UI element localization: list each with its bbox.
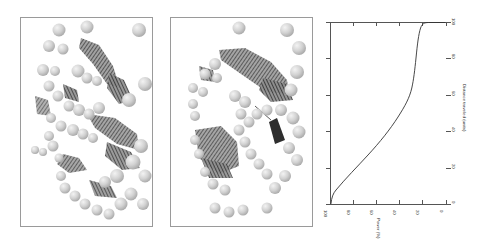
ticklabel-dist-20: 20: [451, 164, 455, 169]
particle-panel-a: [20, 17, 153, 227]
power-decay-chart: 100 80 60 40 20 0 Distance traveled (uni…: [318, 12, 478, 230]
tick-left-f: [326, 204, 330, 205]
ticklabel-power-100: 100: [323, 210, 327, 217]
panel-a-content: [21, 18, 152, 226]
ticklabel-dist-0: 0: [451, 201, 455, 203]
ticklabel-dist-80: 80: [451, 54, 455, 59]
panel-b-graphic: [171, 18, 312, 226]
panel-a-graphic: [21, 18, 152, 226]
ticklabel-power-80: 80: [346, 210, 350, 215]
ticklabel-power-0: 0: [439, 210, 443, 212]
ticklabel-power-60: 60: [369, 210, 373, 215]
chart-xaxis-title: Distance traveled (units): [462, 84, 466, 131]
particle-panel-b: [170, 17, 313, 227]
ticklabel-dist-100: 100: [451, 18, 455, 25]
figure-root: 100 80 60 40 20 0 Distance traveled (uni…: [0, 0, 479, 241]
ticklabel-dist-40: 40: [451, 127, 455, 132]
power-decay-curve: [330, 22, 446, 204]
ticklabel-dist-60: 60: [451, 91, 455, 96]
panel-b-content: [171, 18, 312, 226]
chart-axis-bottom: [330, 204, 446, 205]
ticklabel-power-40: 40: [392, 210, 396, 215]
ticklabel-power-20: 20: [415, 210, 419, 215]
chart-yaxis-title: Power (%): [376, 218, 380, 239]
tick-right-f: [446, 204, 451, 205]
